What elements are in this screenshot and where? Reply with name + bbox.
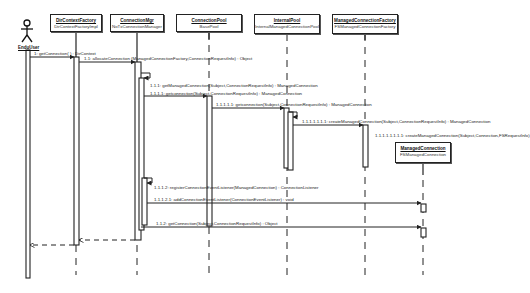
message-label: 1.1.1: getManagedConnection(Subject,Conn…: [150, 83, 318, 88]
object-connectionpool[interactable]: ConnectionPool BasePool: [176, 14, 242, 32]
object-name: ManagedConnection: [396, 146, 450, 151]
object-managedconnection[interactable]: ManagedConnection FSManagedConnection: [395, 142, 451, 163]
object-name: ManagedConnectionFactory: [333, 18, 397, 23]
lifelines: [76, 32, 423, 280]
object-class: NoTxConnectionManager: [111, 24, 163, 29]
object-managedconnectionfactory[interactable]: ManagedConnectionFactory FSManagedConnec…: [332, 14, 398, 34]
message-label: 1.1.1.2.1: addConnectionEventListener(Co…: [154, 197, 294, 202]
message-label: 1.1: allocateConnection (ManagedConnecti…: [84, 56, 252, 61]
object-internalpool[interactable]: InternalPool InternalManagedConnectionPo…: [254, 14, 320, 34]
object-class: FSManagedConnection: [396, 152, 450, 157]
object-class: FSManagedConnectionFactory: [333, 24, 397, 29]
object-connectionmgr[interactable]: ConnectionMgr NoTxConnectionManager: [110, 14, 164, 32]
message-label: 1.1.1.1: getconnection(Subject,Connectio…: [150, 91, 302, 96]
message-label: 1.1.2: getConnection(Subject,ConnectionR…: [156, 221, 278, 226]
object-name: InternalPool: [255, 18, 319, 23]
object-class: DirContextFactoryImpl: [51, 24, 101, 29]
message-label: 1.1.1.1.1.1.1: createManagedConnection(S…: [302, 119, 490, 124]
message-label: 1.1.1.2: registerConnectionEventListener…: [154, 185, 319, 190]
actor-label: EnduUser: [18, 45, 39, 50]
object-name: ConnectionPool: [177, 18, 241, 23]
object-name: ConnectionMgr: [111, 18, 163, 23]
message-label: 1.1.1.1.1.1.1.1: createManagedConnection…: [375, 133, 530, 138]
object-name: DirContextFactory: [51, 18, 101, 23]
actor-stick-figure-icon: [21, 20, 33, 42]
message-label: 1.1.1.1.1: getconnection(Subject,Connect…: [216, 102, 372, 107]
object-class: InternalManagedConnectionPool: [255, 24, 319, 29]
object-dircontextfactory[interactable]: DirContextFactory DirContextFactoryImpl: [50, 14, 102, 32]
object-class: BasePool: [177, 24, 241, 29]
